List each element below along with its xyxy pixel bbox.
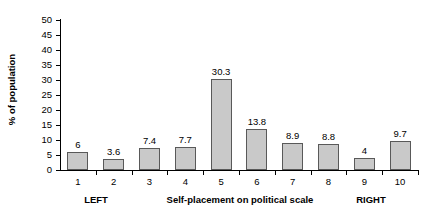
y-axis-tick-label-wrap: 10 xyxy=(26,135,52,145)
bar xyxy=(67,152,88,170)
bar-value-label: 8.8 xyxy=(309,132,349,142)
x-axis-pole-left: LEFT xyxy=(60,194,132,205)
bar-value-label: 3.6 xyxy=(94,147,134,157)
y-axis-tick-label-wrap: 20 xyxy=(26,105,52,115)
bar-value-label: 8.9 xyxy=(273,131,313,141)
y-axis-tick-label-wrap: 35 xyxy=(26,60,52,70)
y-axis-tick-label: 5 xyxy=(26,150,52,160)
x-axis-tick xyxy=(239,171,240,175)
y-axis-tick-label-wrap: 5 xyxy=(26,150,52,160)
x-axis-tick xyxy=(275,171,276,175)
x-axis-tick xyxy=(132,171,133,175)
bar xyxy=(390,141,411,170)
y-axis-tick-label-wrap: 40 xyxy=(26,45,52,55)
x-axis-tick-label: 2 xyxy=(94,177,134,187)
y-axis-tick-label: 35 xyxy=(26,60,52,70)
x-axis-tick-label: 4 xyxy=(165,177,205,187)
bar-chart: % of population 05101520253035404550 613… xyxy=(0,0,432,215)
x-axis-tick-label: 8 xyxy=(309,177,349,187)
x-axis-tick xyxy=(418,171,419,175)
bar-value-label: 6 xyxy=(58,140,98,150)
x-axis-pole-right: RIGHT xyxy=(336,194,406,205)
bar xyxy=(139,148,160,170)
x-axis-title: Self-placement on political scale xyxy=(140,194,340,205)
y-axis-tick-label: 30 xyxy=(26,75,52,85)
y-axis-tick-label-wrap: 50 xyxy=(26,15,52,25)
x-axis-tick xyxy=(311,171,312,175)
bar-value-label: 4 xyxy=(344,146,384,156)
bar xyxy=(103,159,124,170)
bar-value-label: 7.7 xyxy=(165,135,205,145)
y-axis-tick-label: 40 xyxy=(26,45,52,55)
bar xyxy=(354,158,375,170)
bar xyxy=(211,79,232,170)
x-axis-tick xyxy=(382,171,383,175)
x-axis-tick xyxy=(346,171,347,175)
x-axis-tick-label: 1 xyxy=(58,177,98,187)
y-axis-title: % of population xyxy=(2,0,22,178)
bar-value-label: 7.4 xyxy=(130,136,170,146)
x-axis-tick xyxy=(203,171,204,175)
x-axis-tick xyxy=(167,171,168,175)
y-axis-tick-label: 20 xyxy=(26,105,52,115)
y-axis-tick-label-wrap: 25 xyxy=(26,90,52,100)
x-axis-tick-label: 6 xyxy=(237,177,277,187)
y-axis-tick-label: 15 xyxy=(26,120,52,130)
y-axis-tick-label-wrap: 15 xyxy=(26,120,52,130)
x-axis-tick-label: 3 xyxy=(130,177,170,187)
bar xyxy=(246,129,267,170)
y-axis-tick-label-wrap: 45 xyxy=(26,30,52,40)
y-axis-tick-label: 45 xyxy=(26,30,52,40)
bar-value-label: 30.3 xyxy=(201,67,241,77)
y-axis-tick-label: 10 xyxy=(26,135,52,145)
y-axis-tick-label: 50 xyxy=(26,15,52,25)
y-axis-title-text: % of population xyxy=(7,53,18,124)
bar xyxy=(318,144,339,170)
y-axis-tick-label-wrap: 30 xyxy=(26,75,52,85)
x-axis-tick xyxy=(96,171,97,175)
x-axis-tick-label: 9 xyxy=(344,177,384,187)
y-axis-tick xyxy=(56,170,60,171)
x-axis-tick-label: 10 xyxy=(380,177,420,187)
bar xyxy=(175,147,196,170)
bar-value-label: 9.7 xyxy=(380,129,420,139)
y-axis-tick-label: 0 xyxy=(26,165,52,175)
bar-value-label: 13.8 xyxy=(237,117,277,127)
x-axis-tick-label: 7 xyxy=(273,177,313,187)
y-axis-tick-label: 25 xyxy=(26,90,52,100)
x-axis-tick-label: 5 xyxy=(201,177,241,187)
bar xyxy=(282,143,303,170)
y-axis-tick-label-wrap: 0 xyxy=(26,165,52,175)
